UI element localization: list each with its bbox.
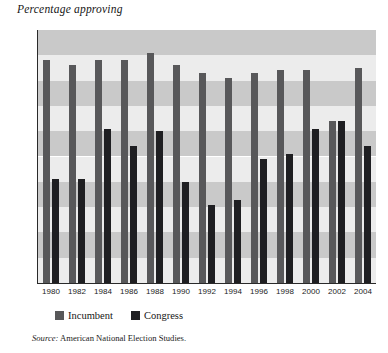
bar-incumbent-1998 — [277, 70, 284, 283]
legend-label-incumbent: Incumbent — [68, 310, 113, 321]
chart-legend: Incumbent Congress — [55, 310, 183, 321]
x-tick-label-2002: 2002 — [328, 287, 346, 296]
bar-group — [69, 30, 85, 283]
bar-incumbent-1984 — [95, 60, 102, 283]
legend-label-congress: Congress — [144, 310, 183, 321]
bar-congress-1996 — [260, 159, 267, 283]
bar-congress-1986 — [130, 146, 137, 283]
bar-incumbent-1982 — [69, 65, 76, 283]
bar-incumbent-1992 — [199, 73, 206, 283]
plot-area — [38, 30, 376, 283]
bars-layer — [38, 30, 376, 283]
legend-item-congress: Congress — [131, 310, 183, 321]
bar-congress-2002 — [338, 121, 345, 283]
bar-congress-1980 — [52, 179, 59, 283]
source-keyword: Source: — [32, 333, 58, 343]
bar-group — [303, 30, 319, 283]
x-tick-label-2004: 2004 — [354, 287, 372, 296]
bar-incumbent-2000 — [303, 70, 310, 283]
legend-swatch-incumbent-icon — [55, 311, 64, 320]
bar-congress-2000 — [312, 129, 319, 283]
bar-incumbent-2004 — [355, 68, 362, 283]
legend-swatch-congress-icon — [131, 311, 140, 320]
x-axis-tick-labels: 1980198219841986198819901992199419961998… — [0, 287, 388, 301]
x-tick-label-1992: 1992 — [198, 287, 216, 296]
x-tick-label-2000: 2000 — [302, 287, 320, 296]
x-axis-line — [37, 283, 376, 284]
bar-incumbent-1994 — [225, 78, 232, 283]
bar-group — [43, 30, 59, 283]
source-note: Source: American National Election Studi… — [32, 333, 186, 343]
x-tick-label-1980: 1980 — [42, 287, 60, 296]
x-tick-label-1990: 1990 — [172, 287, 190, 296]
bar-congress-1990 — [182, 182, 189, 283]
x-tick-label-1988: 1988 — [146, 287, 164, 296]
bar-congress-1992 — [208, 205, 215, 283]
source-text: American National Election Studies. — [58, 333, 186, 343]
bar-group — [225, 30, 241, 283]
bar-group — [199, 30, 215, 283]
bar-incumbent-1990 — [173, 65, 180, 283]
bar-group — [147, 30, 163, 283]
bar-group — [329, 30, 345, 283]
bar-incumbent-1988 — [147, 53, 154, 283]
bar-group — [95, 30, 111, 283]
x-tick-label-1986: 1986 — [120, 287, 138, 296]
bar-group — [121, 30, 137, 283]
bar-incumbent-2002 — [329, 121, 336, 283]
x-tick-label-1996: 1996 — [250, 287, 268, 296]
bar-incumbent-1996 — [251, 73, 258, 283]
bar-group — [355, 30, 371, 283]
bar-incumbent-1986 — [121, 60, 128, 283]
x-tick-label-1982: 1982 — [68, 287, 86, 296]
x-tick-label-1998: 1998 — [276, 287, 294, 296]
bar-congress-1988 — [156, 131, 163, 283]
legend-item-incumbent: Incumbent — [55, 310, 113, 321]
bar-congress-2004 — [364, 146, 371, 283]
bar-group — [173, 30, 189, 283]
bar-congress-1994 — [234, 200, 241, 283]
bar-congress-1984 — [104, 129, 111, 283]
bar-incumbent-1980 — [43, 60, 50, 283]
bar-group — [277, 30, 293, 283]
figure-container: Percentage approving 0102030405060708090… — [0, 0, 388, 353]
bar-group — [251, 30, 267, 283]
bar-congress-1998 — [286, 154, 293, 283]
bar-congress-1982 — [78, 179, 85, 283]
x-tick-label-1984: 1984 — [94, 287, 112, 296]
x-tick-label-1994: 1994 — [224, 287, 242, 296]
